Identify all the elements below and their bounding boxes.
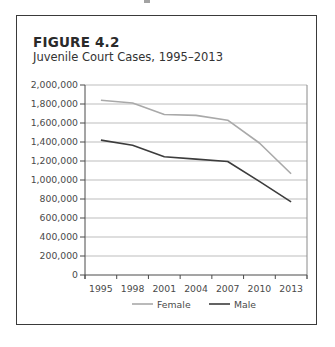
line-chart: 0200,000400,000600,000800,0001,000,0001,… bbox=[0, 0, 335, 347]
y-tick-label: 1,000,000 bbox=[31, 174, 78, 185]
x-tick-label: 1998 bbox=[121, 283, 145, 294]
y-tick-label: 200,000 bbox=[40, 250, 79, 261]
y-tick-label: 1,200,000 bbox=[31, 155, 78, 166]
y-tick-label: 600,000 bbox=[40, 212, 79, 223]
x-tick-label: 2004 bbox=[184, 283, 208, 294]
x-tick-label: 2001 bbox=[152, 283, 176, 294]
y-tick-label: 800,000 bbox=[40, 193, 79, 204]
y-axis: 0200,000400,000600,000800,0001,000,0001,… bbox=[31, 79, 85, 280]
series-line-female bbox=[101, 100, 291, 174]
legend-label-female: Female bbox=[157, 299, 191, 310]
y-tick-label: 1,800,000 bbox=[31, 98, 78, 109]
y-tick-label: 1,400,000 bbox=[31, 136, 78, 147]
y-tick-label: 2,000,000 bbox=[31, 79, 78, 90]
y-tick-label: 1,600,000 bbox=[31, 117, 78, 128]
legend: FemaleMale bbox=[132, 299, 256, 310]
x-tick-label: 2007 bbox=[216, 283, 240, 294]
x-tick-label: 1995 bbox=[89, 283, 113, 294]
y-tick-label: 0 bbox=[72, 269, 78, 280]
gridlines bbox=[85, 85, 307, 279]
x-tick-label: 2013 bbox=[279, 283, 303, 294]
series-line-male bbox=[101, 140, 291, 202]
y-tick-label: 400,000 bbox=[40, 231, 79, 242]
x-tick-label: 2010 bbox=[248, 283, 272, 294]
legend-label-male: Male bbox=[234, 299, 256, 310]
x-axis: 1995199820012004200720102013 bbox=[85, 275, 307, 294]
data-series bbox=[101, 100, 291, 202]
